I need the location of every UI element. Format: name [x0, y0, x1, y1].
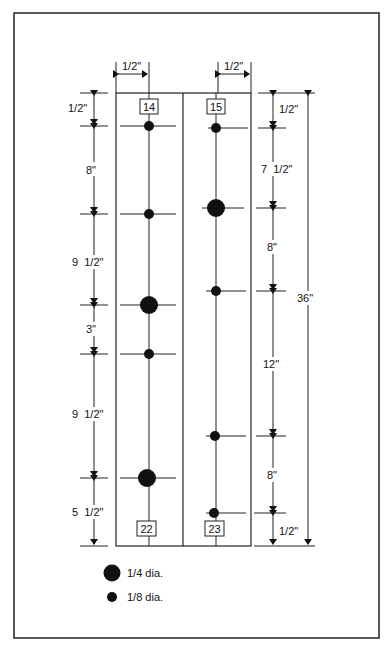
right-dim-3: 12"	[263, 358, 279, 370]
hole-small-icon	[209, 508, 219, 518]
hole-large-icon	[138, 469, 156, 487]
legend-small-hole-icon	[107, 592, 117, 602]
left-dim-chain	[80, 93, 108, 546]
legend-large-hole-icon	[104, 565, 121, 582]
right-dim-2: 8"	[267, 241, 277, 253]
left-holes	[138, 121, 158, 487]
right-dim-chain	[254, 93, 315, 546]
label-14: 14	[143, 101, 155, 113]
hole-small-icon	[211, 286, 221, 296]
left-dim-3: 3"	[86, 323, 96, 335]
left-dim-2: 9 1/2"	[72, 256, 104, 268]
right-hole-crosshairs	[202, 128, 248, 513]
label-22: 22	[140, 523, 152, 535]
legend: 1/4 dia. 1/8 dia.	[104, 565, 164, 604]
right-dim-5: 1/2"	[279, 525, 298, 537]
label-15: 15	[210, 101, 222, 113]
left-dim-0: 1/2"	[68, 102, 87, 114]
legend-small-label: 1/8 dia.	[127, 591, 163, 603]
left-dim-4: 9 1/2"	[72, 408, 104, 420]
top-dim-left-label: 1/2"	[122, 60, 141, 72]
label-23: 23	[208, 523, 220, 535]
hole-small-icon	[144, 209, 154, 219]
legend-large-label: 1/4 dia.	[127, 567, 163, 579]
hole-small-icon	[211, 123, 221, 133]
overall-dim-36: 36"	[297, 292, 313, 304]
hole-small-icon	[144, 121, 154, 131]
hole-small-icon	[144, 349, 154, 359]
right-dim-0: 1/2"	[279, 103, 298, 115]
left-dim-1: 8"	[86, 164, 96, 176]
hole-large-icon	[140, 296, 158, 314]
right-dim-4: 8"	[267, 469, 277, 481]
drilling-diagram: 1/2" 1/2" 1/2" 8" 9 1/2" 3" 9 1/2" 5 1/2…	[0, 0, 387, 652]
right-dim-1: 7 1/2"	[261, 163, 293, 175]
left-dim-5: 5 1/2"	[72, 506, 104, 518]
hole-small-icon	[210, 431, 220, 441]
top-dim-right-label: 1/2"	[224, 60, 243, 72]
hole-large-icon	[207, 199, 225, 217]
